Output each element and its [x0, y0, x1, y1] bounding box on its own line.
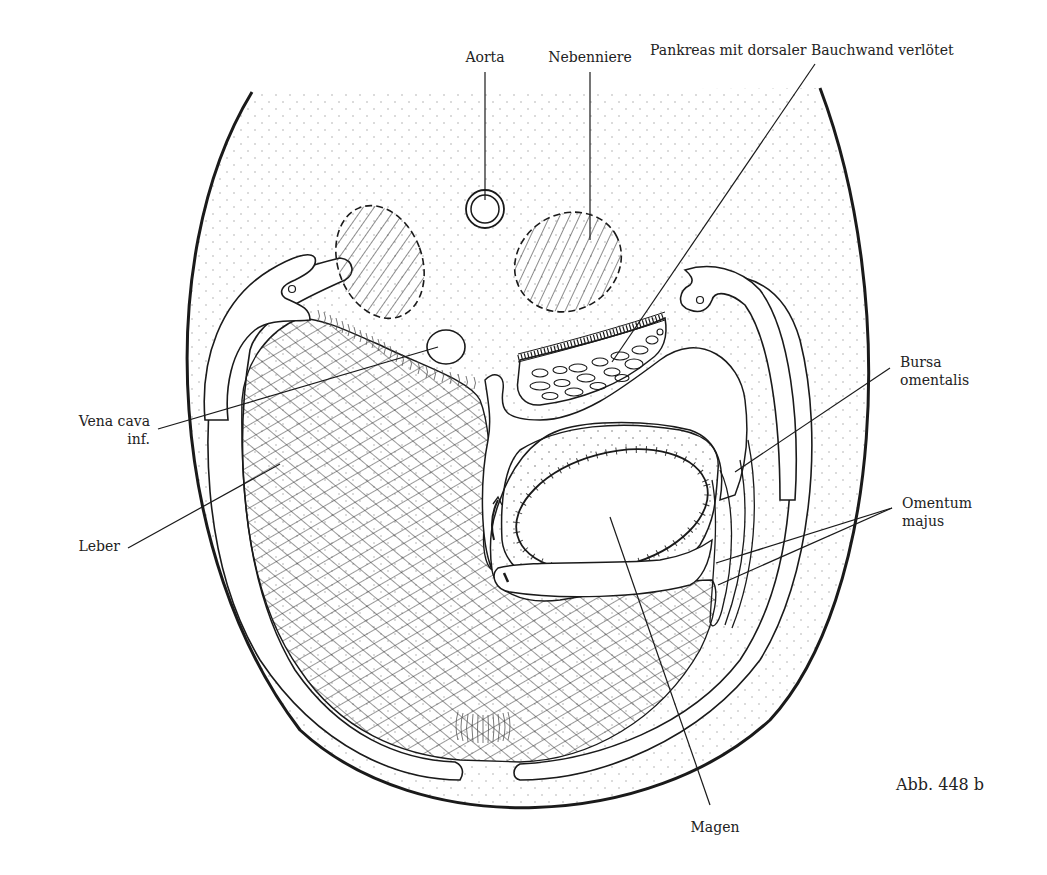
- anatomical-figure: Aorta Nebenniere Pankreas mit dorsaler B…: [0, 0, 1047, 875]
- label-bursa-omentalis: Bursa omentalis: [900, 353, 969, 389]
- vena-cava-inferior: [427, 330, 465, 364]
- label-nebenniere: Nebenniere: [540, 48, 640, 66]
- label-omentum-majus: Omentum majus: [902, 494, 972, 530]
- label-magen: Magen: [685, 818, 745, 836]
- label-vena-cava: Vena cava inf.: [40, 412, 150, 448]
- label-pankreas: Pankreas mit dorsaler Bauchwand verlötet: [650, 41, 954, 59]
- figure-caption: Abb. 448 b: [896, 776, 984, 794]
- label-aorta: Aorta: [455, 48, 515, 66]
- cross-section-drawing: [0, 0, 1047, 875]
- label-leber: Leber: [40, 537, 120, 555]
